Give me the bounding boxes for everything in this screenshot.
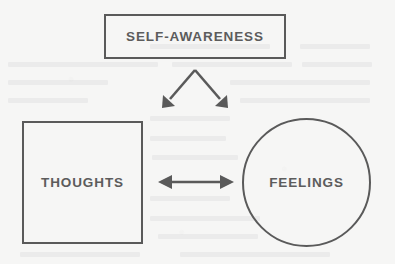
feelings-node: FEELINGS (242, 118, 371, 247)
diagram-canvas: SELF-AWARENESS THOUGHTS FEELINGS (0, 0, 395, 264)
bidirectional-arrow-head-left (158, 175, 172, 189)
feelings-label: FEELINGS (269, 175, 344, 190)
bidirectional-arrow-head-right (220, 175, 234, 189)
